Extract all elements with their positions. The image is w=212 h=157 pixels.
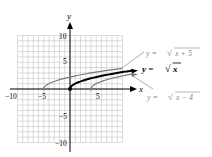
start-point-base <box>68 87 72 91</box>
start-point-right <box>89 87 92 90</box>
legend-base: y = √ x <box>141 63 181 74</box>
y-axis-label: y <box>66 11 71 21</box>
tick-y-5: 5 <box>63 57 67 66</box>
sqrt-icon: √ <box>167 48 172 58</box>
sqrt-icon: √ <box>168 92 173 102</box>
curve-arrow-base-icon <box>131 69 138 74</box>
tick-y-10: 10 <box>59 32 67 41</box>
legend-shift-left-prefix: y = <box>145 49 157 58</box>
tick-y-neg5: −5 <box>59 112 67 121</box>
x-axis-label: x <box>138 84 143 94</box>
tick-x-5: 5 <box>96 92 100 101</box>
legend-base-prefix: y = <box>141 64 153 74</box>
legend-shift-left: y = √ x + 5 <box>145 48 200 58</box>
tick-x-neg5: −5 <box>38 92 46 101</box>
sqrt-icon: √ <box>165 63 171 74</box>
graph-canvas: x y −10 −5 5 10 5 −5 −10 y = √ x + 5 y =… <box>0 0 212 157</box>
tick-x-neg10: −10 <box>5 92 17 101</box>
legend-shift-right: y = √ x − 4 <box>146 92 200 102</box>
legend-shift-left-radicand: x + 5 <box>174 49 192 58</box>
curve-arrow-right-icon <box>131 73 138 77</box>
x-axis-arrow-icon <box>130 86 137 92</box>
legend-shift-right-prefix: y = <box>146 93 158 102</box>
legend-base-radicand: x <box>172 64 178 74</box>
leader-line-right <box>133 76 153 89</box>
legend-shift-right-radicand: x − 4 <box>175 93 193 102</box>
tick-y-neg10: −10 <box>55 139 67 148</box>
start-point-left <box>42 87 45 90</box>
y-axis-arrow-icon <box>67 22 73 29</box>
leader-line-left <box>122 52 144 68</box>
